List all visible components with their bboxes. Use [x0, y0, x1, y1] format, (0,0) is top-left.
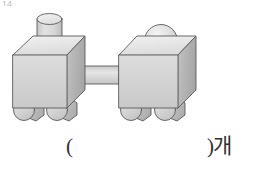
figure-page: 14	[0, 0, 256, 175]
right-box	[119, 36, 196, 108]
left-box	[13, 36, 85, 108]
train-figure	[0, 0, 256, 175]
